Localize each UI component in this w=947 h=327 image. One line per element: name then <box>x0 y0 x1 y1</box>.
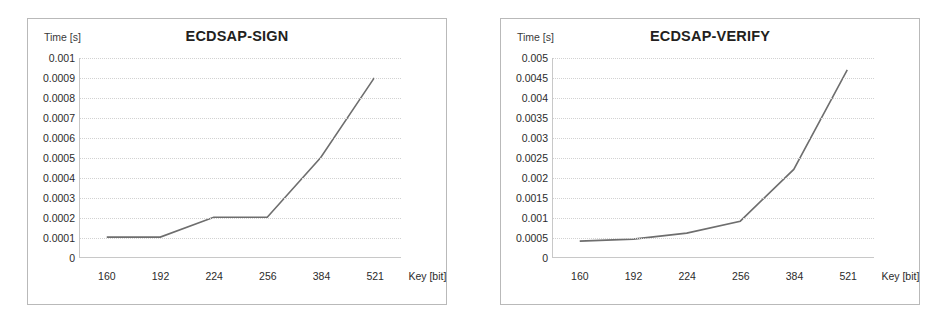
y-tick-label: 0.0003 <box>43 192 75 204</box>
series-polyline <box>580 70 848 241</box>
y-tick-label: 0.0004 <box>43 172 75 184</box>
y-tick-label: 0.0007 <box>43 112 75 124</box>
grid-line <box>80 198 401 199</box>
y-tick-label: 0.0001 <box>43 232 75 244</box>
chart-title: ECDSAP-SIGN <box>28 28 446 44</box>
grid-line <box>553 138 874 139</box>
chart-frame: ECDSAP-VERIFY Time [s] 0.0050.00450.0040… <box>500 18 920 305</box>
chart-title: ECDSAP-VERIFY <box>501 28 919 44</box>
y-axis-title: Time [s] <box>517 31 554 43</box>
chart-figure: ECDSAP-SIGN Time [s] 0.0010.00090.00080.… <box>0 0 947 327</box>
y-tick-label: 0.005 <box>522 52 548 64</box>
y-tick-label: 0.0005 <box>516 232 548 244</box>
x-tick-label: 192 <box>625 270 643 282</box>
grid-line <box>80 238 401 239</box>
grid-line <box>553 158 874 159</box>
x-axis-title: Key [bit] <box>408 270 446 282</box>
x-tick-label: 256 <box>259 270 277 282</box>
grid-line <box>80 218 401 219</box>
y-tick-label: 0.002 <box>522 172 548 184</box>
y-tick-label: 0 <box>69 252 75 264</box>
y-tick-label: 0.0025 <box>516 152 548 164</box>
y-tick-label: 0.0015 <box>516 192 548 204</box>
x-tick-label: 160 <box>98 270 116 282</box>
x-tick-label: 521 <box>839 270 857 282</box>
y-tick-label: 0.0035 <box>516 112 548 124</box>
grid-line <box>553 118 874 119</box>
x-tick-label: 384 <box>313 270 331 282</box>
grid-line <box>80 78 401 79</box>
y-tick-label: 0.0005 <box>43 152 75 164</box>
x-tick-label: 224 <box>678 270 696 282</box>
x-tick-label: 224 <box>205 270 223 282</box>
y-tick-label: 0.0008 <box>43 92 75 104</box>
y-tick-label: 0.0045 <box>516 72 548 84</box>
grid-line <box>553 78 874 79</box>
grid-line <box>553 58 874 59</box>
y-tick-label: 0.0002 <box>43 212 75 224</box>
y-axis-title: Time [s] <box>44 31 81 43</box>
grid-line <box>80 98 401 99</box>
x-tick-label: 384 <box>786 270 804 282</box>
y-tick-label: 0.003 <box>522 132 548 144</box>
chart-panel-verify: ECDSAP-VERIFY Time [s] 0.0050.00450.0040… <box>473 0 946 327</box>
grid-line <box>553 218 874 219</box>
grid-line <box>553 98 874 99</box>
plot-area: 0.0010.00090.00080.00070.00060.00050.000… <box>79 58 401 258</box>
grid-line <box>80 138 401 139</box>
grid-line <box>80 118 401 119</box>
y-tick-label: 0.001 <box>49 52 75 64</box>
y-tick-label: 0.001 <box>522 212 548 224</box>
x-tick-label: 160 <box>571 270 589 282</box>
grid-line <box>80 58 401 59</box>
plot-area: 0.0050.00450.0040.00350.0030.00250.0020.… <box>552 58 874 258</box>
grid-line <box>80 158 401 159</box>
x-tick-label: 256 <box>732 270 750 282</box>
y-tick-label: 0.004 <box>522 92 548 104</box>
chart-panel-sign: ECDSAP-SIGN Time [s] 0.0010.00090.00080.… <box>0 0 473 327</box>
grid-line <box>553 238 874 239</box>
x-tick-label: 521 <box>366 270 384 282</box>
y-tick-label: 0.0009 <box>43 72 75 84</box>
y-tick-label: 0 <box>542 252 548 264</box>
grid-line <box>553 198 874 199</box>
x-tick-label: 192 <box>152 270 170 282</box>
y-tick-label: 0.0006 <box>43 132 75 144</box>
grid-line <box>553 178 874 179</box>
x-axis-title: Key [bit] <box>881 270 919 282</box>
grid-line <box>80 178 401 179</box>
chart-frame: ECDSAP-SIGN Time [s] 0.0010.00090.00080.… <box>27 18 447 305</box>
